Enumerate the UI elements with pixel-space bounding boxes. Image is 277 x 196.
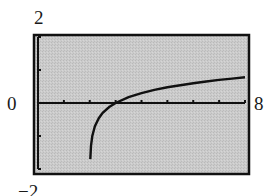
- ymax-label: 2: [34, 8, 44, 27]
- ymin-label: −2: [18, 182, 38, 196]
- xmax-label: 8: [254, 94, 264, 113]
- plot-background: [33, 34, 250, 175]
- xmin-label: 0: [7, 94, 17, 113]
- graph-screen: [0, 0, 277, 196]
